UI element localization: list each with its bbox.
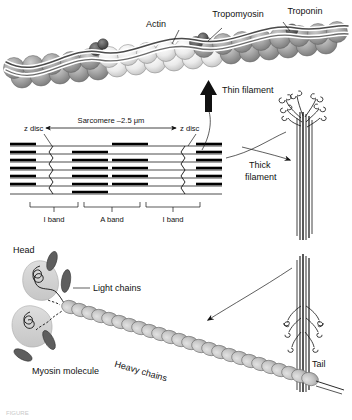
band-braces — [30, 202, 200, 212]
label-i-band-left: I band — [43, 215, 64, 224]
myosin-head-globules — [12, 261, 59, 347]
thick-filament-callout-curve — [226, 132, 286, 158]
label-actin: Actin — [146, 19, 166, 29]
label-troponin: Troponin — [287, 6, 322, 16]
muscle-filament-figure: Actin Tropomyosin Troponin Thin filament… — [0, 0, 352, 420]
label-head: Head — [13, 245, 35, 255]
myosin-molecule-illustration: Head Light chains — [12, 245, 344, 394]
label-z-disc-left: z disc — [24, 124, 44, 133]
sarcomere-illustration: Sarcomere –2.5 μm z disc z disc — [10, 106, 286, 224]
label-sarcomere-length: Sarcomere –2.5 μm — [78, 116, 145, 125]
myofibril-thin-lines — [10, 146, 222, 194]
heavy-chain-tail — [60, 298, 344, 394]
z-disc-right-leader — [188, 134, 196, 146]
label-z-disc-right: z disc — [180, 124, 200, 133]
thick-filament-illustration: Thick filament — [242, 91, 326, 392]
figure-canvas: Actin Tropomyosin Troponin Thin filament… — [0, 0, 352, 420]
label-myosin-molecule: Myosin molecule — [32, 366, 99, 376]
label-thick-filament-line1: Thick — [249, 160, 271, 170]
label-heavy-chains: Heavy chains — [113, 359, 168, 384]
label-light-chains: Light chains — [93, 283, 142, 293]
z-disc-left-leader — [44, 134, 52, 146]
thin-filament-arrow — [200, 80, 217, 112]
label-i-band-right: I band — [162, 215, 183, 224]
myofibril-thick-bars — [10, 144, 222, 192]
label-tail: Tail — [312, 359, 326, 369]
figure-caption: FIGURE — [6, 410, 29, 416]
label-tropomyosin: Tropomyosin — [212, 9, 264, 19]
myosin-molecule-callout-arrow — [208, 268, 292, 320]
label-thick-filament-line2: filament — [245, 172, 277, 182]
label-thin-filament: Thin filament — [222, 85, 274, 95]
thick-filament-arrow — [242, 147, 290, 160]
label-a-band: A band — [100, 215, 124, 224]
